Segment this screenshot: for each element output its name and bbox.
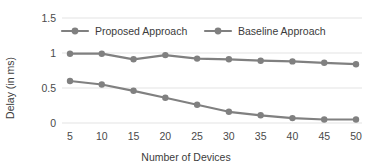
- data-point: [194, 102, 200, 108]
- x-tick-label-30: 30: [223, 130, 235, 142]
- data-point: [321, 60, 327, 66]
- x-tick-label-35: 35: [255, 130, 267, 142]
- x-axis-title: Number of Devices: [141, 151, 230, 163]
- series-line: [70, 81, 356, 120]
- y-axis-title: Delay (in ms): [4, 57, 16, 119]
- legend-item-proposed-approach[interactable]: Proposed Approach: [62, 25, 187, 37]
- x-tick-label-40: 40: [287, 130, 299, 142]
- data-point: [353, 116, 359, 122]
- data-point: [130, 88, 136, 94]
- series-layer: [67, 51, 359, 123]
- y-tick-label-1: 1: [50, 47, 56, 59]
- x-tick-label-15: 15: [128, 130, 140, 142]
- legend-marker-icon: [215, 28, 222, 35]
- data-point: [289, 115, 295, 121]
- data-point: [162, 95, 168, 101]
- data-point: [257, 112, 263, 118]
- chart-legend: Proposed ApproachBaseline Approach: [62, 25, 326, 37]
- x-tick-label-20: 20: [159, 130, 171, 142]
- delay-vs-devices-line-chart: 00.511.5 5101520253035404550 Proposed Ap…: [0, 0, 371, 168]
- series-line: [70, 54, 356, 64]
- legend-item-baseline-approach[interactable]: Baseline Approach: [205, 25, 326, 37]
- x-axis-tick-labels: 5101520253035404550: [67, 130, 362, 142]
- data-point: [289, 58, 295, 64]
- y-tick-label-1.5: 1.5: [41, 12, 56, 24]
- data-point: [194, 55, 200, 61]
- data-point: [130, 56, 136, 62]
- legend-label: Baseline Approach: [238, 25, 326, 37]
- y-tick-label-0: 0: [50, 117, 56, 129]
- x-tick-label-10: 10: [96, 130, 108, 142]
- data-point: [353, 61, 359, 67]
- data-point: [321, 116, 327, 122]
- data-point: [226, 109, 232, 115]
- data-point: [99, 81, 105, 87]
- x-tick-label-45: 45: [318, 130, 330, 142]
- data-point: [67, 51, 73, 57]
- chart-canvas: 00.511.5 5101520253035404550 Proposed Ap…: [0, 0, 371, 168]
- data-point: [67, 78, 73, 84]
- series-proposed-approach: [67, 78, 359, 123]
- data-point: [99, 51, 105, 57]
- y-tick-label-0.5: 0.5: [41, 82, 56, 94]
- data-point: [257, 58, 263, 64]
- data-point: [226, 56, 232, 62]
- x-tick-label-5: 5: [67, 130, 73, 142]
- legend-marker-icon: [72, 28, 79, 35]
- legend-label: Proposed Approach: [95, 25, 187, 37]
- y-axis-tick-labels: 00.511.5: [41, 12, 56, 129]
- x-tick-label-25: 25: [191, 130, 203, 142]
- data-point: [162, 52, 168, 58]
- x-tick-label-50: 50: [350, 130, 362, 142]
